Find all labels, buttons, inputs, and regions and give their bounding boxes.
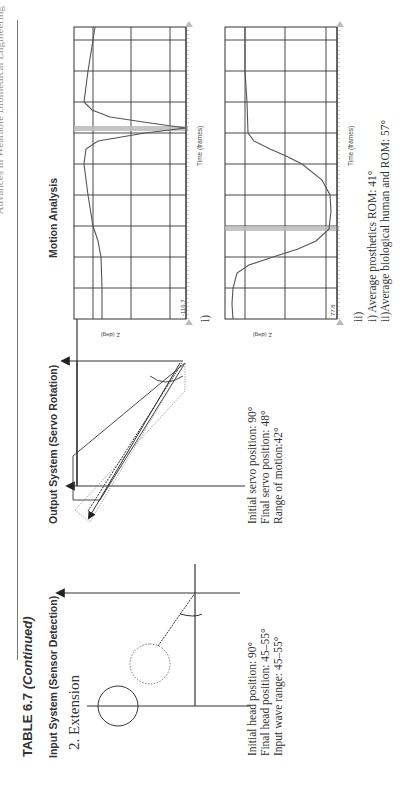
chart-ii xyxy=(0,0,412,786)
chart-ii-cursor xyxy=(225,226,339,231)
rom-notes: i) Average prosthetics ROM: 41° ii)Avera… xyxy=(366,120,392,322)
rom-note-prosthetics: i) Average prosthetics ROM: 41° xyxy=(366,120,379,322)
rom-note-biological: ii)Average biological human and ROM: 57° xyxy=(379,120,392,322)
chart-ii-ylabel: Z (deg) xyxy=(253,332,272,338)
chart-ii-tag: ii) xyxy=(352,312,365,322)
rotated-page: Advances in Wearable Biomedical Engineer… xyxy=(0,0,412,786)
chart-ii-xlabel: Time (frames) xyxy=(347,126,354,166)
chart-ii-marker: 77.8 xyxy=(330,304,336,316)
